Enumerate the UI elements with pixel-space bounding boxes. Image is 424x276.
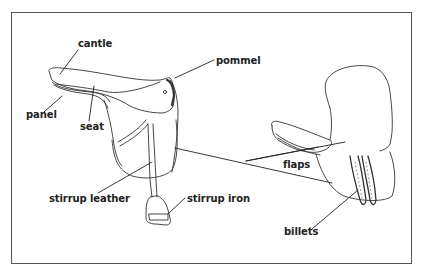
label-pommel: pommel: [216, 55, 260, 66]
label-stirrup-leather: stirrup leather: [49, 193, 130, 204]
label-panel: panel: [26, 109, 57, 120]
right-saddle-drawing: [271, 66, 394, 205]
label-seat: seat: [80, 121, 104, 132]
saddle-illustration: [0, 0, 424, 276]
label-cantle: cantle: [78, 38, 112, 49]
label-billets: billets: [284, 226, 318, 237]
label-flaps: flaps: [283, 159, 310, 170]
label-stirrup-iron: stirrup iron: [187, 193, 250, 204]
